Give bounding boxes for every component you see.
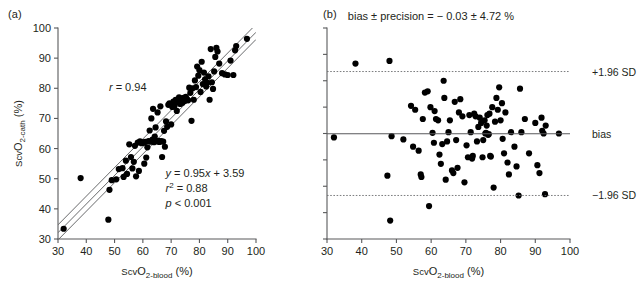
- data-point: [124, 171, 130, 177]
- data-point: [441, 95, 447, 101]
- data-point: [129, 165, 135, 171]
- data-point: [538, 115, 544, 121]
- data-point: [452, 99, 458, 105]
- data-point: [148, 115, 154, 121]
- data-point: [157, 103, 163, 109]
- data-point: [214, 48, 220, 54]
- data-point: [480, 137, 486, 143]
- data-point: [522, 116, 528, 122]
- x-axis-tick-label: 100: [561, 245, 579, 257]
- data-point: [136, 168, 142, 174]
- y-axis-tick-label: 50: [39, 173, 51, 185]
- x-axis-tick-label: 70: [460, 245, 472, 257]
- data-point: [500, 136, 506, 142]
- data-point: [195, 73, 201, 79]
- data-point: [141, 161, 147, 167]
- data-point: [536, 170, 542, 176]
- x-axis-title: ScvO2-blood (%): [121, 265, 192, 280]
- data-point: [61, 226, 67, 232]
- data-point: [154, 109, 160, 115]
- x-axis-tick-label: 80: [193, 245, 205, 257]
- x-axis-title: ScvO2-blood (%): [413, 265, 484, 280]
- data-point: [212, 54, 218, 60]
- data-point: [444, 138, 450, 144]
- y-axis-tick-label: 80: [39, 82, 51, 94]
- panel-a-label: (a): [8, 8, 22, 20]
- r-squared-annotation: r2 = 0.88: [165, 181, 207, 194]
- data-point: [425, 88, 431, 94]
- data-point: [489, 104, 495, 110]
- x-axis-tick-label: 90: [529, 245, 541, 257]
- data-point: [499, 100, 505, 106]
- data-point: [447, 117, 453, 123]
- data-point: [210, 86, 216, 92]
- data-point: [461, 179, 467, 185]
- x-axis-tick-label: 30: [52, 245, 64, 257]
- x-axis-tick-label: 40: [356, 245, 368, 257]
- data-point: [429, 130, 435, 136]
- data-point: [501, 150, 507, 156]
- data-point: [159, 154, 165, 160]
- data-point: [453, 137, 459, 143]
- data-point: [416, 148, 422, 154]
- data-point: [508, 129, 514, 135]
- x-axis-tick-label: 50: [390, 245, 402, 257]
- data-point: [209, 79, 215, 85]
- data-point: [488, 153, 494, 159]
- data-point: [468, 129, 474, 135]
- data-point: [511, 144, 517, 150]
- y-axis-tick-label: 40: [39, 203, 51, 215]
- data-point: [216, 60, 222, 66]
- data-point: [188, 118, 194, 124]
- data-point: [459, 113, 465, 119]
- upper-band-line: [58, 24, 256, 224]
- y-axis-tick-label: 70: [39, 112, 51, 124]
- regression-equation-annotation: y = 0.95x + 3.59: [164, 167, 244, 179]
- data-point: [491, 184, 497, 190]
- data-point: [133, 173, 139, 179]
- data-point: [470, 153, 476, 159]
- data-point: [504, 159, 510, 165]
- data-point: [168, 121, 174, 127]
- data-point: [123, 158, 129, 164]
- data-point: [105, 217, 111, 223]
- data-point: [441, 78, 447, 84]
- data-point: [400, 136, 406, 142]
- data-point: [244, 36, 250, 42]
- data-point: [484, 122, 490, 128]
- data-point: [482, 117, 488, 123]
- correlation-annotation: r = 0.94: [109, 81, 147, 93]
- y-axis-tick-label: 30: [39, 233, 51, 245]
- x-axis-tick-label: 90: [222, 245, 234, 257]
- data-point: [495, 107, 501, 113]
- data-point: [131, 159, 137, 165]
- data-point: [420, 116, 426, 122]
- data-point: [233, 43, 239, 49]
- data-point: [126, 141, 132, 147]
- data-point: [436, 152, 442, 158]
- upper-limit-of-agreement-label: +1.96 SD: [592, 66, 636, 78]
- panel-b-label: (b): [323, 8, 337, 20]
- y-axis-title: ScvO2-cath (%): [12, 100, 27, 167]
- data-point: [227, 57, 233, 63]
- data-point: [106, 187, 112, 193]
- data-point: [426, 203, 432, 209]
- bias-precision-annotation: bias ± precision = − 0.03 ± 4.72 %: [348, 10, 514, 22]
- data-point: [445, 129, 451, 135]
- data-point: [199, 59, 205, 65]
- data-point: [432, 108, 438, 114]
- data-point: [384, 173, 390, 179]
- p-value-annotation: p < 0.001: [164, 197, 211, 209]
- data-point: [193, 84, 199, 90]
- data-point: [174, 108, 180, 114]
- data-point: [492, 119, 498, 125]
- figure-container: (a) 3040506070809010030405060708090100Sc…: [0, 0, 642, 285]
- data-point: [454, 165, 460, 171]
- data-point: [152, 124, 158, 130]
- panel-b: (b) 1612840−4−8−12−1630405060708090100Sc…: [321, 0, 642, 285]
- data-point: [479, 154, 485, 160]
- data-point: [191, 97, 197, 103]
- data-point: [412, 107, 418, 113]
- scatter-correlation-plot: 3040506070809010030405060708090100ScvO2-…: [0, 0, 321, 285]
- data-point: [331, 134, 337, 140]
